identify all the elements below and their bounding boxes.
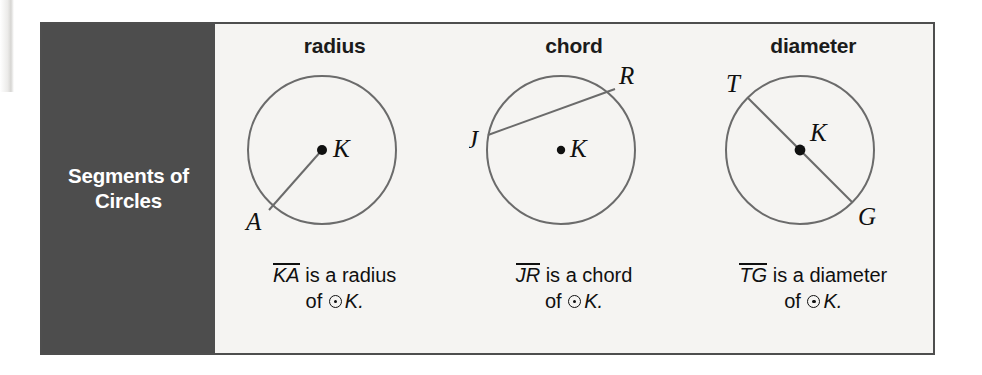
label-center-K: K <box>809 119 828 146</box>
label-point-T: T <box>726 70 742 97</box>
caption-line-2: of K. <box>454 288 693 314</box>
column-header-radius: radius <box>215 34 454 58</box>
label-point-G: G <box>858 203 876 230</box>
side-panel: Segments of Circles <box>42 24 215 353</box>
circle-dot-icon <box>329 295 344 310</box>
side-panel-title: Segments of Circles <box>62 164 195 212</box>
caption-circle-name: K. <box>584 290 603 312</box>
caption-line-1: KA is a radius <box>215 262 454 288</box>
radius-diagram: K A <box>215 62 454 252</box>
caption-line-2: of K. <box>215 288 454 314</box>
segments-of-circles-figure: Segments of Circles radius K A KA is a r… <box>40 22 935 355</box>
column-chord: chord K J R JR is a chord of K. <box>454 24 693 353</box>
caption-circle-name: K. <box>345 290 364 312</box>
caption-diameter: TG is a diameter of K. <box>694 262 933 314</box>
caption-radius: KA is a radius of K. <box>215 262 454 314</box>
segment-notation-KA: KA <box>273 263 300 287</box>
diagram-columns: radius K A KA is a radius of K. chord <box>215 24 933 353</box>
caption-line-1: JR is a chord <box>454 262 693 288</box>
column-radius: radius K A KA is a radius of K. <box>215 24 454 353</box>
label-point-A: A <box>244 208 262 235</box>
caption-of-prefix: of <box>784 290 806 312</box>
circle-dot-icon <box>568 295 583 310</box>
label-center-K: K <box>332 135 351 162</box>
center-dot <box>557 146 565 154</box>
circle-dot-icon <box>807 295 822 310</box>
caption-line-2: of K. <box>694 288 933 314</box>
caption-of-prefix: of <box>545 290 567 312</box>
column-diameter: diameter K T G TG is a diameter of K. <box>694 24 933 353</box>
caption-text-diameter: is a diameter <box>767 264 887 286</box>
column-header-diameter: diameter <box>694 34 933 58</box>
center-dot <box>317 145 327 155</box>
label-point-J: J <box>469 126 480 153</box>
label-center-K: K <box>569 135 588 162</box>
caption-text-radius: is a radius <box>300 264 397 286</box>
label-point-R: R <box>618 62 634 89</box>
caption-chord: JR is a chord of K. <box>454 262 693 314</box>
column-header-chord: chord <box>454 34 693 58</box>
radius-segment <box>269 150 322 210</box>
scan-edge-artifact <box>0 0 14 92</box>
diameter-diagram: K T G <box>694 62 933 252</box>
caption-line-1: TG is a diameter <box>694 262 933 288</box>
segment-notation-JR: JR <box>516 263 540 287</box>
caption-circle-name: K. <box>823 290 842 312</box>
caption-text-chord: is a chord <box>540 264 632 286</box>
chord-diagram: K J R <box>454 62 693 252</box>
caption-of-prefix: of <box>306 290 328 312</box>
chord-segment <box>488 89 615 135</box>
center-dot <box>795 145 806 156</box>
segment-notation-TG: TG <box>739 263 767 287</box>
